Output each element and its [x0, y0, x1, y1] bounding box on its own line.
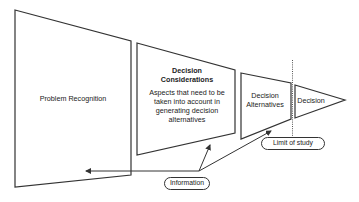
information-badge: Information [164, 177, 210, 190]
decision-considerations-title: Decision Considerations [160, 66, 214, 84]
problem-recognition-label: Problem Recognition [15, 94, 131, 103]
limit-of-study-badge: Limit of study [261, 137, 325, 150]
decision-label: Decision [294, 96, 328, 105]
arrow-to-decision-considerations [199, 145, 210, 171]
decision-alternatives-label: Decision Alternatives [238, 91, 292, 109]
decision-considerations-description: Aspects that need to be taken into accou… [140, 88, 234, 124]
decision-funnel-diagram: Problem Recognition Decision Considerati… [0, 0, 359, 202]
